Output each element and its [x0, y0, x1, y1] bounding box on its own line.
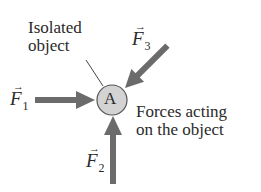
- force-arrow-f2: [104, 116, 122, 184]
- isolated-object-label-line2: object: [28, 37, 70, 55]
- vector-arrow-icon: →: [13, 80, 24, 92]
- isolated-object-label-line1: Isolated: [28, 19, 82, 37]
- vector-arrow-icon: →: [135, 20, 146, 32]
- force-label-f3: →F3: [132, 28, 150, 50]
- object-label: A: [104, 90, 116, 108]
- leader-line: [86, 60, 103, 86]
- forces-label-line1: Forces acting: [136, 103, 227, 121]
- vector-arrow-icon: →: [89, 142, 100, 154]
- force-label-f2: →F2: [86, 150, 104, 172]
- forces-label-line2: on the object: [136, 121, 224, 139]
- force-arrow-f1: [35, 91, 95, 109]
- force-label-f1: →F1: [10, 88, 28, 110]
